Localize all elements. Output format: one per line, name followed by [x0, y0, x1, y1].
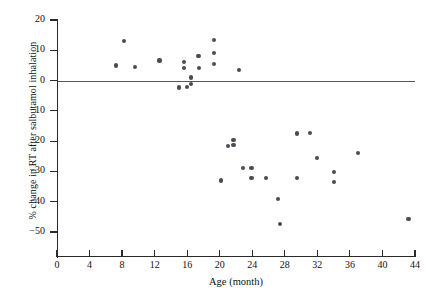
x-axis-tick-label: 12 — [140, 259, 170, 270]
x-axis-tick-label: 4 — [75, 259, 105, 270]
data-point — [295, 131, 299, 135]
data-point — [212, 38, 216, 42]
data-point — [114, 63, 118, 67]
y-axis-tick — [50, 171, 57, 172]
data-point — [157, 58, 161, 62]
data-point — [264, 176, 268, 180]
data-point — [356, 151, 360, 155]
y-axis-tick-label: −50 — [5, 225, 45, 236]
x-axis-tick-label: 44 — [400, 259, 426, 270]
data-point — [133, 65, 137, 69]
x-axis-tick-label: 32 — [302, 259, 332, 270]
data-point — [332, 170, 336, 174]
data-point — [189, 82, 193, 86]
y-axis-tick-label: −40 — [5, 195, 45, 206]
data-point — [278, 222, 282, 226]
data-point — [196, 54, 200, 58]
y-axis-tick — [50, 110, 57, 111]
y-axis-tick-label: −20 — [5, 134, 45, 145]
data-point — [212, 62, 216, 66]
x-axis-tick-label: 20 — [205, 259, 235, 270]
y-axis-tick — [50, 231, 57, 232]
data-point — [182, 60, 186, 64]
x-axis-tick-label: 16 — [172, 259, 202, 270]
data-point — [315, 156, 319, 160]
y-axis-tick — [50, 141, 57, 142]
data-point — [219, 178, 223, 182]
data-point — [197, 66, 201, 70]
y-axis-tick-label: 20 — [5, 13, 45, 24]
y-axis-tick — [50, 201, 57, 202]
x-axis-tick-label: 28 — [270, 259, 300, 270]
data-point — [189, 75, 193, 79]
data-point — [295, 176, 299, 180]
data-point — [226, 144, 230, 148]
data-point — [249, 166, 253, 170]
y-axis-tick-label: 0 — [5, 74, 45, 85]
data-point — [231, 143, 235, 147]
x-axis-tick-label: 40 — [367, 259, 397, 270]
data-point — [185, 85, 189, 89]
x-axis-tick-label: 24 — [237, 259, 267, 270]
data-point — [182, 66, 186, 70]
x-axis-tick-label: 8 — [107, 259, 137, 270]
data-point — [308, 131, 312, 135]
data-point — [276, 197, 280, 201]
y-axis-tick-label: 10 — [5, 43, 45, 54]
x-axis-tick-label: 0 — [42, 259, 72, 270]
data-point — [212, 51, 216, 55]
data-point — [231, 138, 235, 142]
data-point — [332, 180, 336, 184]
data-point — [177, 85, 181, 89]
plot-area — [57, 20, 415, 257]
data-point — [249, 176, 253, 180]
x-axis-tick-label: 36 — [335, 259, 365, 270]
y-axis-tick — [50, 19, 57, 20]
y-axis-tick-label: −30 — [5, 164, 45, 175]
data-point — [122, 39, 126, 43]
y-axis-tick — [50, 80, 57, 81]
data-point — [241, 166, 245, 170]
data-point — [237, 68, 241, 72]
y-axis-tick-label: −10 — [5, 104, 45, 115]
scatter-plot-figure: % change in RT after salbutamol inhalati… — [0, 0, 426, 299]
y-axis-tick — [50, 50, 57, 51]
data-point — [406, 217, 410, 221]
x-axis-title: Age (month) — [57, 276, 415, 287]
